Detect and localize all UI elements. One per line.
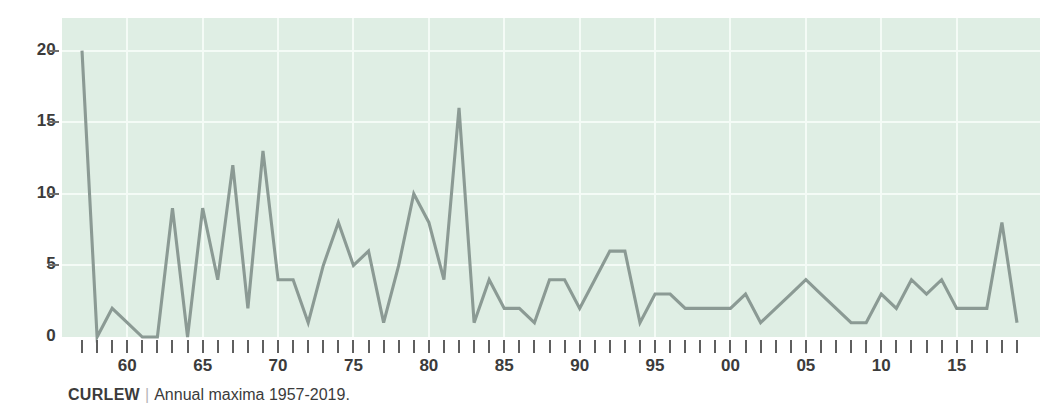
caption-series-name: CURLEW — [68, 386, 140, 403]
x-tick-mark-2017 — [986, 340, 988, 353]
x-tick-mark-2010 — [880, 340, 882, 353]
caption-separator: | — [145, 386, 149, 403]
x-tick-mark-2007 — [835, 340, 837, 353]
x-tick-label-90: 90 — [560, 356, 600, 376]
x-tick-mark-1965 — [202, 340, 204, 353]
x-tick-mark-1957 — [81, 340, 83, 353]
x-tick-mark-2001 — [745, 340, 747, 353]
x-tick-mark-2016 — [971, 340, 973, 353]
x-axis: 606570758085909500051015 — [0, 337, 1052, 377]
x-tick-mark-1987 — [533, 340, 535, 353]
x-tick-mark-2014 — [941, 340, 943, 353]
gridline-y-5 — [62, 264, 1040, 266]
x-tick-label-15: 15 — [937, 356, 977, 376]
x-tick-mark-2002 — [760, 340, 762, 353]
x-tick-mark-1980 — [428, 340, 430, 353]
x-tick-mark-2013 — [926, 340, 928, 353]
y-tick-mark-15 — [48, 121, 59, 123]
x-tick-mark-2012 — [910, 340, 912, 353]
x-tick-mark-1986 — [518, 340, 520, 353]
x-tick-mark-1977 — [383, 340, 385, 353]
x-tick-mark-1998 — [699, 340, 701, 353]
x-tick-label-10: 10 — [861, 356, 901, 376]
x-tick-mark-1976 — [368, 340, 370, 353]
x-tick-mark-2006 — [820, 340, 822, 353]
x-tick-mark-1968 — [247, 340, 249, 353]
x-tick-mark-1960 — [126, 340, 128, 353]
x-tick-mark-1963 — [171, 340, 173, 353]
x-tick-mark-2008 — [850, 340, 852, 353]
x-tick-mark-2011 — [895, 340, 897, 353]
x-tick-mark-1971 — [292, 340, 294, 353]
x-tick-label-80: 80 — [409, 356, 449, 376]
x-tick-mark-1962 — [156, 340, 158, 353]
x-tick-mark-2009 — [865, 340, 867, 353]
gridline-x-05 — [805, 18, 807, 337]
gridline-x-90 — [579, 18, 581, 337]
x-tick-label-60: 60 — [107, 356, 147, 376]
x-tick-label-85: 85 — [484, 356, 524, 376]
x-tick-mark-1982 — [458, 340, 460, 353]
x-tick-mark-1992 — [609, 340, 611, 353]
x-tick-mark-2000 — [729, 340, 731, 353]
gridline-x-00 — [729, 18, 731, 337]
x-tick-mark-2019 — [1016, 340, 1018, 353]
y-tick-mark-10 — [48, 193, 59, 195]
caption-description: Annual maxima 1957-2019. — [154, 386, 350, 403]
x-tick-mark-1988 — [549, 340, 551, 353]
x-tick-mark-1996 — [669, 340, 671, 353]
x-tick-label-05: 05 — [786, 356, 826, 376]
x-tick-label-95: 95 — [635, 356, 675, 376]
x-tick-label-70: 70 — [258, 356, 298, 376]
x-tick-mark-1999 — [714, 340, 716, 353]
x-tick-mark-1985 — [503, 340, 505, 353]
x-tick-mark-1989 — [564, 340, 566, 353]
gridline-y-10 — [62, 193, 1040, 195]
gridline-x-75 — [352, 18, 354, 337]
x-tick-mark-2005 — [805, 340, 807, 353]
gridline-y-20 — [62, 50, 1040, 52]
caption: CURLEW|Annual maxima 1957-2019. — [68, 386, 350, 404]
x-tick-mark-1991 — [594, 340, 596, 353]
x-tick-mark-2003 — [775, 340, 777, 353]
x-tick-mark-1975 — [352, 340, 354, 353]
x-tick-mark-1969 — [262, 340, 264, 353]
gridline-x-15 — [956, 18, 958, 337]
x-tick-mark-1983 — [473, 340, 475, 353]
x-tick-mark-2015 — [956, 340, 958, 353]
gridline-x-95 — [654, 18, 656, 337]
x-tick-mark-1993 — [624, 340, 626, 353]
gridline-x-85 — [503, 18, 505, 337]
gridline-y-15 — [62, 121, 1040, 123]
x-tick-mark-2004 — [790, 340, 792, 353]
x-tick-mark-1979 — [413, 340, 415, 353]
plot-area — [62, 18, 1040, 337]
x-tick-mark-1997 — [684, 340, 686, 353]
x-tick-mark-1984 — [488, 340, 490, 353]
gridline-x-80 — [428, 18, 430, 337]
gridline-x-65 — [202, 18, 204, 337]
y-tick-mark-5 — [48, 264, 59, 266]
x-tick-mark-1972 — [307, 340, 309, 353]
gridline-x-70 — [277, 18, 279, 337]
gridline-x-60 — [126, 18, 128, 337]
x-tick-mark-1990 — [579, 340, 581, 353]
x-tick-mark-1994 — [639, 340, 641, 353]
gridline-x-10 — [880, 18, 882, 337]
x-tick-label-00: 00 — [710, 356, 750, 376]
x-tick-mark-1995 — [654, 340, 656, 353]
x-tick-mark-1961 — [141, 340, 143, 353]
chart-figure: 20151050 606570758085909500051015 CURLEW… — [0, 0, 1052, 410]
x-tick-label-75: 75 — [333, 356, 373, 376]
x-tick-mark-1978 — [398, 340, 400, 353]
x-tick-mark-1973 — [322, 340, 324, 353]
y-tick-mark-20 — [48, 50, 59, 52]
x-tick-mark-1958 — [96, 340, 98, 353]
x-tick-mark-1966 — [217, 340, 219, 353]
x-tick-mark-1964 — [187, 340, 189, 353]
x-tick-mark-1981 — [443, 340, 445, 353]
x-tick-mark-1959 — [111, 340, 113, 353]
x-tick-mark-1967 — [232, 340, 234, 353]
x-tick-mark-1974 — [337, 340, 339, 353]
x-tick-mark-1970 — [277, 340, 279, 353]
